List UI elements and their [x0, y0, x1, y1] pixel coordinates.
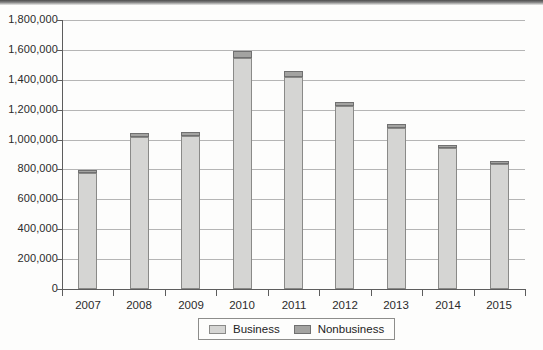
y-axis-tick — [57, 80, 62, 81]
bar-segment-business[interactable] — [284, 77, 303, 289]
y-axis-tick-label: 200,000 — [2, 252, 58, 264]
x-axis-tick — [62, 290, 63, 296]
x-axis-tick-label: 2009 — [166, 299, 216, 311]
bar-column[interactable] — [284, 71, 303, 289]
x-axis-tick — [165, 290, 166, 296]
x-axis-tick — [525, 290, 526, 296]
gridline — [62, 50, 525, 51]
x-axis-tick-label: 2015 — [474, 299, 524, 311]
bar-column[interactable] — [438, 145, 457, 289]
x-axis-tick-label: 2011 — [269, 299, 319, 311]
bar-column[interactable] — [130, 134, 149, 289]
bar-segment-business[interactable] — [233, 58, 252, 289]
x-axis-tick-label: 2014 — [423, 299, 473, 311]
x-axis-tick-label: 2010 — [217, 299, 267, 311]
x-axis-tick-label: 2007 — [63, 299, 113, 311]
y-axis-tick-label: 0 — [2, 282, 58, 294]
x-axis-tick — [216, 290, 217, 296]
bar-segment-business[interactable] — [387, 128, 406, 289]
stacked-column-chart: 1,800,0001,600,0001,400,0001,200,0001,00… — [0, 0, 543, 350]
y-axis-tick-label: 600,000 — [2, 192, 58, 204]
bar-segment-business[interactable] — [181, 136, 200, 289]
legend-label-nonbusiness: Nonbusiness — [318, 323, 384, 335]
y-axis-tick-label: 1,400,000 — [2, 73, 58, 85]
bar-column[interactable] — [490, 161, 509, 289]
gridline — [62, 20, 525, 21]
bar-segment-business[interactable] — [490, 164, 509, 289]
y-axis-tick — [57, 110, 62, 111]
bar-column[interactable] — [78, 170, 97, 289]
x-axis-tick — [268, 290, 269, 296]
y-axis-tick — [57, 140, 62, 141]
legend-swatch-nonbusiness-icon — [294, 325, 311, 334]
bar-segment-nonbusiness[interactable] — [78, 170, 97, 173]
y-axis-tick-label: 800,000 — [2, 162, 58, 174]
bar-column[interactable] — [387, 124, 406, 289]
bar-segment-nonbusiness[interactable] — [130, 133, 149, 137]
y-axis-tick-label: 400,000 — [2, 222, 58, 234]
chart-legend: Business Nonbusiness — [198, 318, 395, 340]
plot-area — [62, 20, 525, 289]
bar-segment-business[interactable] — [130, 137, 149, 289]
bar-segment-nonbusiness[interactable] — [181, 132, 200, 136]
bar-segment-business[interactable] — [335, 106, 354, 289]
chart-page: 1,800,0001,600,0001,400,0001,200,0001,00… — [0, 0, 543, 350]
y-axis-tick — [57, 50, 62, 51]
x-axis-tick-label: 2008 — [114, 299, 164, 311]
bar-segment-business[interactable] — [78, 173, 97, 289]
bar-segment-nonbusiness[interactable] — [284, 71, 303, 77]
x-axis-tick — [474, 290, 475, 296]
y-axis-tick — [57, 289, 62, 290]
x-axis-tick — [371, 290, 372, 296]
x-axis-line — [62, 289, 526, 290]
bar-segment-nonbusiness[interactable] — [490, 161, 509, 164]
x-axis-tick — [319, 290, 320, 296]
y-axis-labels: 1,800,0001,600,0001,400,0001,200,0001,00… — [0, 0, 58, 350]
y-axis-tick — [57, 199, 62, 200]
legend-item-business[interactable]: Business — [209, 323, 280, 335]
y-axis-tick — [57, 169, 62, 170]
bar-segment-nonbusiness[interactable] — [387, 124, 406, 128]
x-axis-tick-label: 2012 — [320, 299, 370, 311]
y-axis-tick-label: 1,200,000 — [2, 103, 58, 115]
bar-column[interactable] — [233, 51, 252, 289]
x-axis-tick — [113, 290, 114, 296]
y-axis-tick — [57, 229, 62, 230]
bar-segment-nonbusiness[interactable] — [335, 102, 354, 106]
y-axis-line — [62, 20, 63, 290]
y-axis-tick — [57, 20, 62, 21]
bar-column[interactable] — [181, 131, 200, 289]
legend-label-business: Business — [233, 323, 280, 335]
bar-segment-nonbusiness[interactable] — [438, 145, 457, 148]
bar-column[interactable] — [335, 101, 354, 289]
bar-segment-nonbusiness[interactable] — [233, 51, 252, 58]
y-axis-tick — [57, 259, 62, 260]
legend-item-nonbusiness[interactable]: Nonbusiness — [294, 323, 384, 335]
y-axis-tick-label: 1,600,000 — [2, 43, 58, 55]
y-axis-tick-label: 1,000,000 — [2, 133, 58, 145]
x-axis-tick-label: 2013 — [371, 299, 421, 311]
bar-segment-business[interactable] — [438, 148, 457, 289]
x-axis-tick — [422, 290, 423, 296]
legend-swatch-business-icon — [209, 325, 226, 334]
y-axis-tick-label: 1,800,000 — [2, 13, 58, 25]
